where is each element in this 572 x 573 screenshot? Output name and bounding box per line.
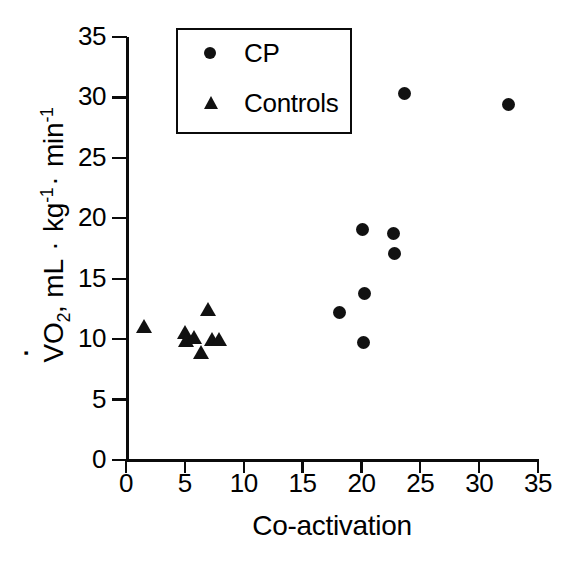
y-tick-mark — [112, 36, 127, 38]
triangle-icon — [204, 96, 218, 109]
legend-label-cp: CP — [244, 39, 280, 67]
y-tick-mark — [112, 278, 127, 280]
y-label-exp-1: -1 — [37, 188, 57, 203]
x-tick-label: 5 — [158, 470, 212, 496]
y-tick-mark — [112, 157, 127, 159]
data-point-cp — [357, 336, 370, 349]
data-point-controls — [136, 319, 152, 333]
data-point-cp — [387, 227, 400, 240]
y-tick-label-text: 30 — [66, 83, 106, 109]
y-label-v: V — [37, 344, 71, 362]
y-tick-label-text: 35 — [66, 23, 106, 49]
y-axis-label: VO2, mL · kg-1· min-1 — [30, 15, 70, 455]
y-tick-label-text: 0 — [66, 446, 106, 472]
x-tick-label: 35 — [511, 470, 565, 496]
y-label-units: , mL — [38, 253, 69, 313]
x-tick-label: 0 — [99, 470, 153, 496]
y-tick-label-text: 10 — [66, 325, 106, 351]
data-point-controls — [200, 302, 216, 316]
x-tick-label: 25 — [393, 470, 447, 496]
circle-icon — [204, 47, 216, 59]
x-tick-label: 30 — [452, 470, 506, 496]
data-point-cp — [502, 98, 515, 111]
y-label-middot-1: · — [38, 240, 69, 253]
x-axis-line — [126, 459, 538, 462]
x-axis-label: Co-activation — [126, 510, 538, 542]
legend-box: CP Controls — [176, 28, 352, 134]
y-tick-mark — [112, 338, 127, 340]
y-tick-mark — [112, 217, 127, 219]
data-point-cp — [358, 287, 371, 300]
x-tick-label: 15 — [276, 470, 330, 496]
y-tick-label-text: 20 — [66, 204, 106, 230]
data-point-controls — [211, 332, 227, 346]
y-tick-mark — [112, 398, 127, 400]
y-label-exp-2: -1 — [37, 108, 57, 123]
data-point-cp — [356, 223, 369, 236]
y-label-min: min — [38, 123, 69, 175]
legend-item-cp: CP — [178, 36, 350, 70]
data-point-controls — [193, 345, 209, 359]
y-tick-label-text: 25 — [66, 144, 106, 170]
y-label-o: O — [38, 322, 69, 344]
y-label-kg: kg — [38, 203, 69, 240]
y-tick-label-text: 5 — [66, 386, 106, 412]
data-point-controls — [186, 330, 202, 344]
y-label-middot-2: · — [38, 175, 69, 188]
x-tick-label: 20 — [334, 470, 388, 496]
legend-item-controls: Controls — [178, 86, 350, 120]
y-tick-label-text: 15 — [66, 265, 106, 291]
y-label-sub2: 2 — [54, 313, 74, 323]
x-tick-label: 10 — [217, 470, 271, 496]
data-point-cp — [398, 87, 411, 100]
y-tick-mark — [112, 96, 127, 98]
data-point-cp — [388, 247, 401, 260]
legend-label-controls: Controls — [244, 89, 338, 117]
data-point-cp — [333, 306, 346, 319]
figure-canvas: 05101520253035 05101520253035 CP Control… — [0, 0, 572, 573]
